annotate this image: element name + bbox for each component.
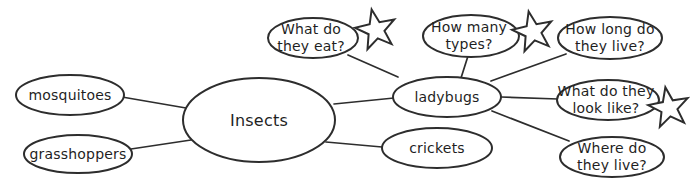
node-label-line: mosquitoes	[28, 87, 111, 104]
connector-insects-mosquitoes	[122, 97, 186, 108]
node-label-line: grasshoppers	[29, 146, 126, 163]
node-label-line: How long do	[565, 21, 654, 38]
node-label-line: look like?	[558, 100, 655, 117]
node-label-line: types?	[431, 36, 507, 53]
connector-ladybugs-what-do-they-eat	[348, 55, 398, 77]
connector-ladybugs-what-do-they-look-like	[501, 97, 558, 99]
node-label-line: Where do	[577, 140, 647, 157]
node-label-grasshoppers: grasshoppers	[29, 146, 126, 163]
node-label-what-do-they-eat: What do they eat?	[277, 21, 345, 55]
node-label-line: How many	[431, 19, 507, 36]
node-label-crickets: crickets	[409, 140, 465, 157]
node-label-line: What do	[277, 21, 345, 38]
connector-ladybugs-how-long-do-they-live	[491, 54, 566, 81]
node-label-what-do-they-look-like: What do they look like?	[558, 83, 655, 117]
connector-insects-ladybugs	[334, 98, 394, 104]
node-label-line: crickets	[409, 140, 465, 157]
node-label-insects: Insects	[230, 112, 288, 129]
node-label-line: ladybugs	[414, 89, 479, 106]
node-label-how-many-types: How many types?	[431, 19, 507, 53]
node-label-line: they live?	[577, 157, 647, 174]
node-label-line: they live?	[565, 38, 654, 55]
node-label-line: they eat?	[277, 38, 345, 55]
connector-insects-grasshoppers	[131, 140, 191, 149]
node-label-where-do-they-live: Where do they live?	[577, 140, 647, 174]
node-label-mosquitoes: mosquitoes	[28, 87, 111, 104]
star-icon-what-do-they-eat	[352, 5, 399, 50]
connector-ladybugs-how-many-types	[461, 56, 468, 78]
connector-insects-crickets	[326, 142, 382, 147]
star-icon-how-many-types	[509, 7, 556, 52]
node-label-ladybugs: ladybugs	[414, 89, 479, 106]
node-label-how-long-do-they-live: How long do they live?	[565, 21, 654, 55]
node-label-line: What do they	[558, 83, 655, 100]
concept-map: Insects mosquitoes grasshoppers ladybugs…	[0, 0, 700, 186]
node-label-line: Insects	[230, 112, 288, 129]
